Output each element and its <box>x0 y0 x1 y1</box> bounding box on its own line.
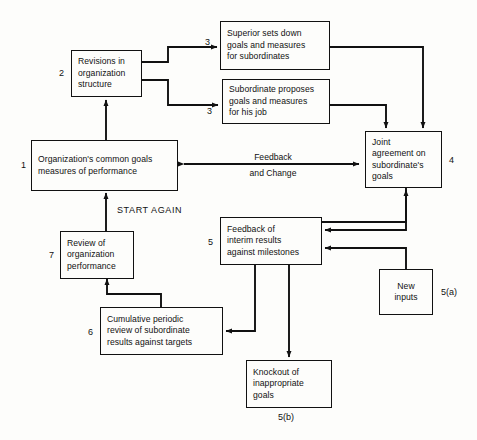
edge-n5a-to-n5 <box>325 248 406 269</box>
node-text-line: review of subordinate <box>107 325 217 336</box>
node-number-5b: 5(b) <box>278 412 294 422</box>
node-text-line: New <box>397 281 414 292</box>
node-subordinate-proposes-goals[interactable]: Subordinate proposes goals and measures … <box>222 79 330 124</box>
node-text-line: interim results <box>227 235 316 246</box>
node-text-line: Review of <box>67 238 128 249</box>
node-number-3a: 3 <box>205 37 210 47</box>
node-text-line: Revisions in <box>78 56 136 67</box>
edge-n3b-to-n4 <box>330 105 386 128</box>
node-new-inputs[interactable]: New inputs <box>379 269 433 315</box>
node-text-line: goals and measures <box>227 40 324 51</box>
edge-n2-to-n3a <box>142 47 217 62</box>
node-cumulative-periodic-review[interactable]: Cumulative periodic review of subordinat… <box>100 307 223 355</box>
node-number-4: 4 <box>449 155 454 165</box>
node-text-line: inappropriate <box>253 378 326 389</box>
node-text-line: goals <box>372 171 436 182</box>
node-number-3b: 3 <box>207 106 212 116</box>
node-text-line: for his job <box>229 107 324 118</box>
node-text-line: measures of performance <box>38 166 172 177</box>
node-superior-sets-down-goals[interactable]: Superior sets down goals and measures fo… <box>220 21 330 70</box>
node-number-6: 6 <box>88 327 93 337</box>
node-feedback-of-interim-results[interactable]: Feedback of interim results against mile… <box>220 217 322 265</box>
node-number-5: 5 <box>208 237 213 247</box>
node-knockout-of-inappropriate-goals[interactable]: Knockout of inappropriate goals <box>246 360 332 408</box>
node-text-line: agreement on <box>372 148 436 159</box>
node-text-line: organization <box>67 249 128 260</box>
node-number-5a: 5(a) <box>441 287 457 297</box>
node-revisions-in-organization-structure[interactable]: Revisions in organization structure <box>71 50 142 97</box>
node-number-1: 1 <box>21 160 26 170</box>
node-text-line: goals <box>253 390 326 401</box>
edge-n5-to-n6 <box>226 265 255 331</box>
edge-n4-to-n5 <box>325 187 406 230</box>
node-text-line: results against targets <box>107 337 217 348</box>
node-text-line: inputs <box>394 292 417 303</box>
node-text-line: performance <box>67 261 128 272</box>
edge-n2-to-n3b <box>142 80 218 105</box>
node-text-line: Knockout of <box>253 367 326 378</box>
node-text-line: Feedback of <box>227 224 316 235</box>
node-number-2: 2 <box>59 68 64 78</box>
edge-n6-to-n7 <box>107 279 161 307</box>
node-text-line: Cumulative periodic <box>107 314 217 325</box>
node-text-line: Organization's common goals <box>38 154 172 165</box>
edge-n3a-to-n4 <box>330 47 423 128</box>
label-start-again: START AGAIN <box>117 205 182 215</box>
node-text-line: against milestones <box>227 247 316 258</box>
node-text-line: structure <box>78 79 136 90</box>
node-number-7: 7 <box>49 250 54 260</box>
node-joint-agreement-on-subordinates-goals[interactable]: Joint agreement on subordinate's goals <box>365 131 442 188</box>
node-text-line: subordinate's <box>372 160 436 171</box>
node-text-line: for subordinates <box>227 51 324 62</box>
edge-n5-to-n4 <box>322 190 406 222</box>
node-text-line: goals and measures <box>229 96 324 107</box>
node-review-of-organization-performance[interactable]: Review of organization performance <box>60 231 134 279</box>
node-text-line: Superior sets down <box>227 28 324 39</box>
node-text-line: organization <box>78 68 136 79</box>
edge-label-feedback: Feedback <box>243 152 303 163</box>
edge-label-and-change: and Change <box>240 168 306 179</box>
flowchart-diagram: Revisions in organization structure 2 Su… <box>0 0 477 440</box>
node-text-line: Subordinate proposes <box>229 84 324 95</box>
node-text-line: Joint <box>372 137 436 148</box>
node-organizations-common-goals[interactable]: Organization's common goals measures of … <box>31 140 178 191</box>
